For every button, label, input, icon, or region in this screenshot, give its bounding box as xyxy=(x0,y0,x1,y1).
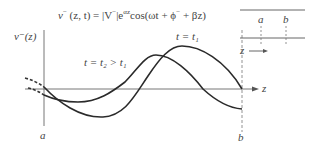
inset-arrow-icon xyxy=(263,49,268,53)
y-axis-label: v⁻(z) xyxy=(14,31,36,42)
curve-t1-dashed xyxy=(25,78,44,87)
inset-b-label: b xyxy=(283,14,289,25)
marker-a-label: a xyxy=(40,130,46,141)
eq-cos: cos(ωt + ϕ xyxy=(130,9,176,21)
eq-args: (z, t) = |V xyxy=(67,9,112,21)
curve-t2-label: t = t₂ > t₁ xyxy=(84,57,127,68)
curve-t2 xyxy=(44,55,242,109)
eq-tail: + βz) xyxy=(180,9,206,21)
marker-b-label: b xyxy=(238,132,244,143)
inset-a-label: a xyxy=(258,14,264,25)
z-arrow-icon xyxy=(252,87,259,92)
curve-t1 xyxy=(44,46,242,117)
curve-t1-label: t = t₁ xyxy=(176,31,199,42)
x-axis-label: z xyxy=(262,83,266,94)
wave-equation: v− (z, t) = |V−|eαzcos(ωt + ϕ− + βz) xyxy=(58,9,206,21)
inset-z-label: z xyxy=(240,45,244,56)
wave-diagram xyxy=(0,0,318,144)
